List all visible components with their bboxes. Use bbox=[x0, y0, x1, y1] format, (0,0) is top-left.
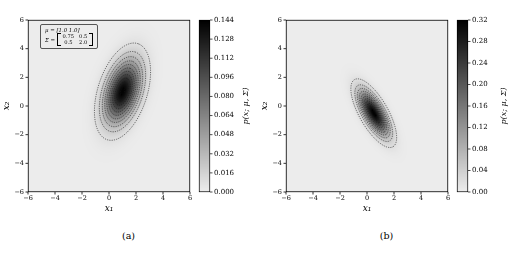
plot-area-b bbox=[258, 0, 515, 228]
cov-row-a: Σ = 0.75 0.5 0.5 2.0 bbox=[45, 33, 93, 46]
cov-matrix-a: 0.75 0.5 0.5 2.0 bbox=[57, 33, 93, 46]
cov-label-a: Σ = bbox=[45, 37, 55, 43]
panel-a: μ = [1.0 1.0] Σ = 0.75 0.5 0.5 2.0 (a) bbox=[0, 0, 257, 255]
subcaption-b: (b) bbox=[258, 230, 515, 241]
gaussian-contour-plot-b bbox=[258, 0, 515, 228]
figure-root: μ = [1.0 1.0] Σ = 0.75 0.5 0.5 2.0 (a) bbox=[0, 0, 515, 255]
bracket-right-a bbox=[89, 33, 93, 46]
panel-b: μ = [0.5 −0.5] Σ = 0.5 −0.5 −0.5 1.0 (b) bbox=[258, 0, 515, 255]
parameter-annotation-a: μ = [1.0 1.0] Σ = 0.75 0.5 0.5 2.0 bbox=[40, 24, 98, 49]
subcaption-a: (a) bbox=[0, 230, 257, 241]
cov-cell-a-10: 0.5 bbox=[63, 40, 75, 46]
cov-cell-a-11: 2.0 bbox=[79, 40, 87, 46]
cov-cells-a: 0.75 0.5 0.5 2.0 bbox=[61, 33, 90, 46]
gaussian-contour-plot-a bbox=[0, 0, 257, 228]
plot-area-a bbox=[0, 0, 257, 228]
